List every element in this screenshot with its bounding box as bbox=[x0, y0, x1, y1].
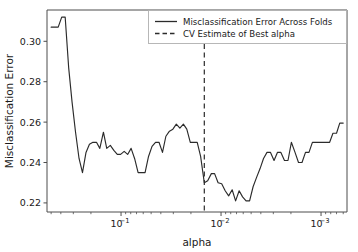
x-axis-ticks: 10−110−210−3 bbox=[110, 212, 329, 229]
y-tick-label: 0.30 bbox=[20, 36, 41, 47]
x-tick-label-exponent: −2 bbox=[220, 217, 230, 225]
legend-label-misclassification-error: Misclassification Error Across Folds bbox=[183, 17, 333, 27]
chart-figure: 0.220.240.260.280.30 10−110−210−3 alpha … bbox=[0, 0, 358, 252]
legend-label-cv-best-alpha: CV Estimate of Best alpha bbox=[183, 29, 295, 39]
legend: Misclassification Error Across Folds CV … bbox=[149, 11, 347, 44]
y-tick-label: 0.28 bbox=[20, 76, 41, 87]
y-axis-ticks: 0.220.240.260.280.30 bbox=[20, 36, 47, 209]
x-tick-label-exponent: −3 bbox=[320, 217, 330, 225]
y-tick-label: 0.22 bbox=[20, 197, 41, 208]
x-axis-label: alpha bbox=[182, 236, 211, 248]
y-tick-label: 0.26 bbox=[20, 117, 41, 128]
y-axis-label: Misclassification Error bbox=[3, 53, 15, 168]
chart-canvas: 0.220.240.260.280.30 10−110−210−3 alpha … bbox=[0, 0, 358, 252]
y-tick-label: 0.24 bbox=[20, 157, 41, 168]
x-tick-label-exponent: −1 bbox=[120, 217, 130, 225]
